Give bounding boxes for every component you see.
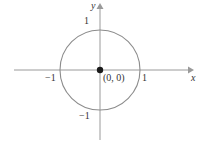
y-axis-label: y: [91, 1, 95, 11]
x-axis-tick-label-1: 1: [142, 73, 147, 83]
plot-canvas: [0, 0, 202, 145]
x-axis-tick-label-neg-1: −1: [45, 73, 56, 83]
unit-circle-figure: 1 −1 −1 1 y x (0, 0): [0, 0, 202, 145]
y-axis-tick-label-neg-1: −1: [79, 111, 90, 121]
origin-point-label: (0, 0): [103, 73, 125, 83]
x-axis-label: x: [191, 73, 195, 83]
y-axis-tick-label-1: 1: [84, 16, 89, 26]
y-axis-arrow-icon: [97, 3, 104, 9]
